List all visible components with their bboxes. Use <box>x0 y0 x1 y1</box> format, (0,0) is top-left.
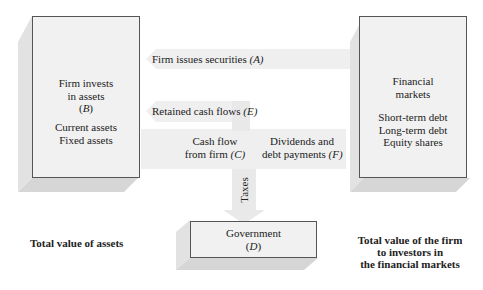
letter-a: (A) <box>249 53 263 65</box>
letter-e: (E) <box>243 105 257 117</box>
letter-f: (F) <box>329 148 343 160</box>
right-box-title: Financial markets <box>359 75 467 100</box>
flow-f-label: Dividends and debt payments (F) <box>262 135 342 160</box>
right-box-items: Short-term debt Long-term debt Equity sh… <box>359 111 467 149</box>
flow-e-label: Retained cash flows (E) <box>152 105 257 117</box>
letter-d: D <box>250 240 258 252</box>
flow-taxes-label: Taxes <box>238 172 250 208</box>
right-caption: Total value of the firm to investors in … <box>340 234 480 270</box>
government-box-title: Government (D) <box>190 227 317 252</box>
letter-c: (C) <box>231 148 246 160</box>
flow-c-label: Cash flow from firm (C) <box>180 135 250 160</box>
flow-a-label: Firm issues securities (A) <box>152 53 264 65</box>
